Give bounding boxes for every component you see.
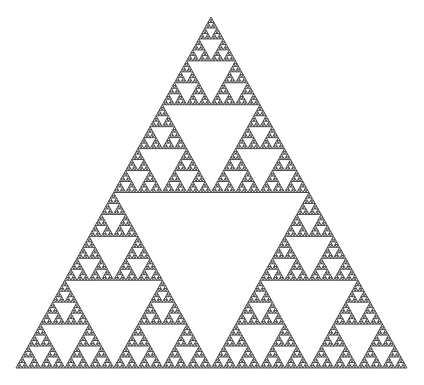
sierpinski-figure: Sierpinski triangle [0, 0, 424, 385]
triangle-outlines [16, 17, 407, 368]
sierpinski-triangle-svg [0, 0, 424, 385]
sierpinski-path [16, 17, 407, 368]
